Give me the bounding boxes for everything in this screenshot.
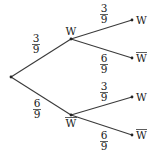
leaf-label-wbar-w: W (136, 91, 147, 103)
leaf-node-w-wbar (131, 57, 134, 60)
leaf-label-w-wbar: W (136, 52, 147, 64)
prob-root-w: 3 9 (32, 32, 40, 55)
fraction-denominator: 9 (101, 91, 108, 103)
fraction-denominator: 9 (101, 63, 108, 75)
leaf-node-wbar-w (131, 96, 134, 99)
fraction-denominator: 9 (34, 108, 41, 120)
prob-w-w: 3 9 (100, 2, 108, 25)
label-wbar-text: W (66, 117, 77, 129)
leaf-label-wbar-wbar: W (136, 129, 147, 141)
leaf-label-wbar-wbar-text: W (136, 129, 147, 141)
label-w: W (66, 25, 77, 37)
leaf-label-w-wbar-text: W (136, 52, 147, 64)
prob-root-wbar: 6 9 (33, 97, 41, 120)
prob-wbar-w: 3 9 (100, 80, 108, 103)
root-node (10, 76, 13, 79)
leaf-label-w-w: W (136, 14, 147, 26)
prob-wbar-wbar: 6 9 (100, 129, 108, 152)
prob-w-wbar: 6 9 (100, 52, 108, 75)
probability-tree-diagram: W W W W W W 3 9 6 9 3 9 6 9 3 9 (0, 0, 149, 154)
edge-root-to-w (11, 39, 71, 77)
node-wbar (70, 114, 73, 117)
leaf-node-w-w (131, 19, 134, 22)
fraction-denominator: 9 (33, 43, 40, 55)
leaf-node-wbar-wbar (131, 134, 134, 137)
label-wbar: W (65, 117, 77, 129)
node-w (70, 38, 73, 41)
fraction-denominator: 9 (101, 140, 108, 152)
fraction-denominator: 9 (101, 13, 108, 25)
